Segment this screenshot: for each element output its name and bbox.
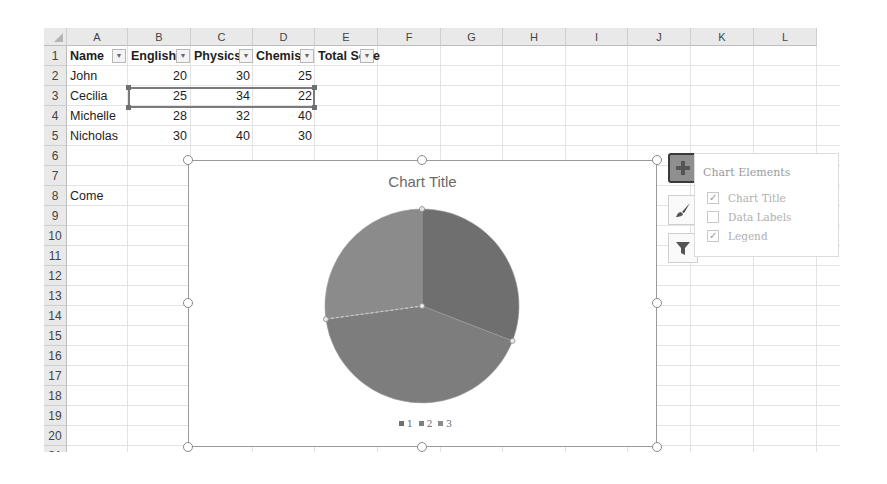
cell-D5[interactable]: 30 xyxy=(253,126,315,146)
cell-A3[interactable]: Cecilia xyxy=(67,86,128,106)
checkbox-legend[interactable]: ✓ xyxy=(707,230,719,242)
filter-dropdown-A[interactable]: ▼ xyxy=(112,49,126,63)
column-header-C[interactable]: C xyxy=(191,28,253,46)
row-header-19[interactable]: 19 xyxy=(44,406,67,426)
cell-B5[interactable]: 30 xyxy=(128,126,190,146)
resize-handle-bottom-left[interactable] xyxy=(183,442,193,452)
header-english: English xyxy=(131,49,176,63)
cell-B1[interactable]: English xyxy=(128,46,176,66)
cell-B4[interactable]: 28 xyxy=(128,106,190,126)
resize-handle-bottom[interactable] xyxy=(417,442,427,452)
data-point-handle[interactable] xyxy=(323,317,328,322)
resize-handle-right[interactable] xyxy=(652,298,662,308)
header-physics: Physics xyxy=(194,49,239,63)
header-name: Name xyxy=(70,49,104,63)
row-header-3[interactable]: 3 xyxy=(44,86,67,106)
header-chemistry: Chemis xyxy=(256,49,301,63)
data-point-handle[interactable] xyxy=(510,338,515,343)
cell-A4[interactable]: Michelle xyxy=(67,106,128,126)
cell-C1[interactable]: Physics xyxy=(191,46,239,66)
selection-handle[interactable] xyxy=(312,105,317,110)
plus-icon xyxy=(674,159,692,177)
cell-D2[interactable]: 25 xyxy=(253,66,315,86)
legend-swatch-1 xyxy=(399,421,404,426)
row-header-10[interactable]: 10 xyxy=(44,226,67,246)
select-all-corner[interactable] xyxy=(44,28,67,46)
chart-legend[interactable]: 123 xyxy=(189,419,656,429)
column-header-D[interactable]: D xyxy=(253,28,315,46)
header-total-score-tail: e xyxy=(373,49,380,63)
cell-D4[interactable]: 40 xyxy=(253,106,315,126)
filter-dropdown-B[interactable]: ▼ xyxy=(176,49,190,63)
row-header-5[interactable]: 5 xyxy=(44,126,67,146)
selection-handle[interactable] xyxy=(126,105,131,110)
row-header-9[interactable]: 9 xyxy=(44,206,67,226)
pie-chart[interactable]: Chart Title 123 xyxy=(188,160,657,447)
option-chart-title[interactable]: ✓ Chart Title xyxy=(707,190,786,206)
column-header-A[interactable]: A xyxy=(67,28,128,46)
resize-handle-top-right[interactable] xyxy=(652,155,662,165)
column-header-B[interactable]: B xyxy=(128,28,191,46)
selection-handle[interactable] xyxy=(126,85,131,90)
cell-A5[interactable]: Nicholas xyxy=(67,126,128,146)
cell-A2[interactable]: John xyxy=(67,66,128,86)
row-header-18[interactable]: 18 xyxy=(44,386,67,406)
row-header-14[interactable]: 14 xyxy=(44,306,67,326)
cell-C5[interactable]: 40 xyxy=(191,126,253,146)
resize-handle-top-left[interactable] xyxy=(183,155,193,165)
selection-handle[interactable] xyxy=(312,85,317,90)
legend-swatch-2 xyxy=(419,421,424,426)
row-header-20[interactable]: 20 xyxy=(44,426,67,446)
row-header-4[interactable]: 4 xyxy=(44,106,67,126)
filter-dropdown-C[interactable]: ▼ xyxy=(239,49,253,63)
legend-label-3[interactable]: 3 xyxy=(446,419,452,429)
pie-slice-3[interactable] xyxy=(325,209,422,319)
option-label: Data Labels xyxy=(728,211,791,223)
legend-swatch-3 xyxy=(438,421,443,426)
selection-range-B3-D3[interactable] xyxy=(128,87,315,108)
column-header-F[interactable]: F xyxy=(378,28,441,46)
header-total-score: Total Sc xyxy=(318,49,361,63)
option-data-labels[interactable]: Data Labels xyxy=(707,209,791,225)
row-header-21[interactable]: 21 xyxy=(44,446,67,452)
row-header-2[interactable]: 2 xyxy=(44,66,67,86)
column-header-J[interactable]: J xyxy=(628,28,691,46)
row-header-1[interactable]: 1 xyxy=(44,46,67,66)
column-header-E[interactable]: E xyxy=(315,28,378,46)
row-header-13[interactable]: 13 xyxy=(44,286,67,306)
column-header-K[interactable]: K xyxy=(691,28,754,46)
option-legend[interactable]: ✓ Legend xyxy=(707,228,768,244)
cell-C4[interactable]: 32 xyxy=(191,106,253,126)
column-header-I[interactable]: I xyxy=(566,28,628,46)
cell-E1-overflow: e xyxy=(372,46,392,66)
checkbox-chart-title[interactable]: ✓ xyxy=(707,192,719,204)
row-header-15[interactable]: 15 xyxy=(44,326,67,346)
filter-dropdown-D[interactable]: ▼ xyxy=(300,49,314,63)
cell-B2[interactable]: 20 xyxy=(128,66,190,86)
resize-handle-top[interactable] xyxy=(417,155,427,165)
data-point-handle[interactable] xyxy=(420,207,425,212)
resize-handle-left[interactable] xyxy=(183,298,193,308)
option-label: Legend xyxy=(728,230,768,242)
pie-plot-area[interactable] xyxy=(189,161,656,446)
column-header-H[interactable]: H xyxy=(503,28,566,46)
cell-E1[interactable]: Total Sc xyxy=(315,46,361,66)
row-header-11[interactable]: 11 xyxy=(44,246,67,266)
cell-A8[interactable]: Come xyxy=(67,186,128,206)
row-header-7[interactable]: 7 xyxy=(44,166,67,186)
row-header-12[interactable]: 12 xyxy=(44,266,67,286)
row-header-16[interactable]: 16 xyxy=(44,346,67,366)
row-header-6[interactable]: 6 xyxy=(44,146,67,166)
cell-C2[interactable]: 30 xyxy=(191,66,253,86)
legend-label-2[interactable]: 2 xyxy=(427,419,433,429)
checkbox-data-labels[interactable] xyxy=(707,211,719,223)
panel-title: Chart Elements xyxy=(703,166,790,179)
data-point-handle[interactable] xyxy=(420,304,425,309)
resize-handle-bottom-right[interactable] xyxy=(652,442,662,452)
row-header-8[interactable]: 8 xyxy=(44,186,67,206)
row-header-17[interactable]: 17 xyxy=(44,366,67,386)
legend-label-1[interactable]: 1 xyxy=(407,419,413,429)
column-header-L[interactable]: L xyxy=(754,28,817,46)
column-header-G[interactable]: G xyxy=(441,28,503,46)
cell-D1[interactable]: Chemis xyxy=(253,46,301,66)
